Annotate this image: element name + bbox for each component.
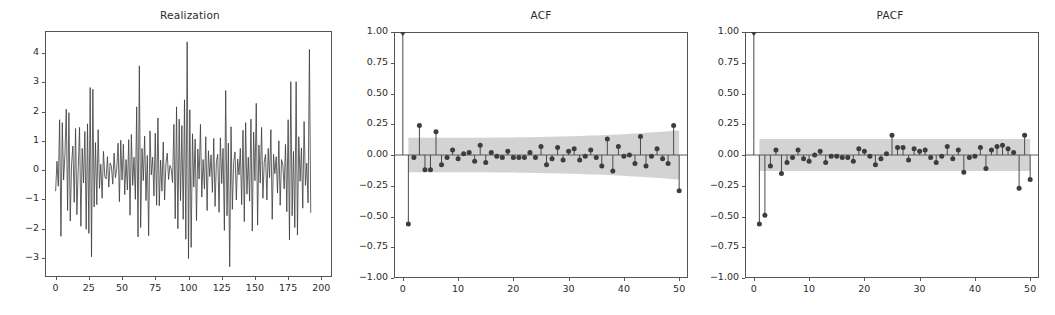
axis-tick-mark [742, 155, 745, 156]
stem-marker [812, 153, 817, 158]
stem-marker [762, 213, 767, 218]
axis-tick-mark [920, 278, 921, 281]
axis-tick-mark [809, 278, 810, 281]
stem-marker [945, 144, 950, 149]
stem-marker [757, 221, 762, 226]
stem-marker [923, 148, 928, 153]
stem-marker [807, 159, 812, 164]
stem-marker [961, 170, 966, 175]
stem-marker [1022, 133, 1027, 138]
stem-marker [856, 146, 861, 151]
stem-marker [878, 156, 883, 161]
stem-marker [917, 149, 922, 154]
axis-tick-mark [742, 63, 745, 64]
stem-marker [823, 160, 828, 165]
stem-marker [901, 145, 906, 150]
y-tick-label: −0.75 [707, 240, 739, 251]
axis-tick-mark [742, 247, 745, 248]
axis-tick-mark [742, 94, 745, 95]
stem-marker [867, 154, 872, 159]
stem-marker [995, 144, 1000, 149]
stem-marker-lag0 [751, 32, 757, 36]
stem-marker [884, 151, 889, 156]
stem-marker [779, 171, 784, 176]
stem-marker [840, 155, 845, 160]
axis-tick-mark [864, 278, 865, 281]
stem-marker [1006, 146, 1011, 151]
stem-marker [895, 145, 900, 150]
stem-marker [768, 164, 773, 169]
stem-marker [1017, 186, 1022, 191]
stem-marker [785, 160, 790, 165]
y-tick-label: −1.00 [707, 271, 739, 282]
stem-marker [1028, 177, 1033, 182]
axis-tick-mark [742, 124, 745, 125]
x-tick-label: 30 [900, 283, 940, 294]
axis-tick-mark [742, 32, 745, 33]
stem-marker [890, 133, 895, 138]
y-tick-label: −0.25 [707, 179, 739, 190]
stem-marker [906, 157, 911, 162]
stem-marker [912, 146, 917, 151]
stem-marker [967, 155, 972, 160]
stem-marker [928, 155, 933, 160]
stem-marker [862, 149, 867, 154]
stem-marker [851, 159, 856, 164]
stem-marker [934, 160, 939, 165]
stem-marker [818, 149, 823, 154]
pacf-stem-plot [0, 0, 1055, 315]
stem-marker [834, 154, 839, 159]
y-tick-label: 0.75 [707, 56, 739, 67]
stem-marker [983, 166, 988, 171]
stem-marker [790, 155, 795, 160]
y-tick-label: 1.00 [707, 25, 739, 36]
stem-marker [972, 154, 977, 159]
stem-marker [873, 162, 878, 167]
y-tick-label: 0.50 [707, 87, 739, 98]
x-tick-label: 10 [789, 283, 829, 294]
figure-panel-container: Realization −3−2−10123402550751001251501… [0, 0, 1055, 315]
stem-marker [939, 154, 944, 159]
axis-tick-mark [754, 278, 755, 281]
axis-tick-mark [742, 217, 745, 218]
y-tick-label: 0.25 [707, 117, 739, 128]
stem-marker [950, 156, 955, 161]
x-tick-label: 20 [844, 283, 884, 294]
x-tick-label: 40 [955, 283, 995, 294]
axis-tick-mark [742, 278, 745, 279]
x-tick-label: 50 [1010, 283, 1050, 294]
x-tick-label: 0 [734, 283, 774, 294]
axis-tick-mark [1030, 278, 1031, 281]
stem-marker [829, 154, 834, 159]
stem-marker [801, 156, 806, 161]
axis-tick-mark [742, 186, 745, 187]
y-tick-label: 0.00 [707, 148, 739, 159]
stem-marker [989, 148, 994, 153]
y-tick-label: −0.50 [707, 210, 739, 221]
stem-marker [796, 148, 801, 153]
stem-marker [1000, 143, 1005, 148]
stem-marker [1011, 150, 1016, 155]
stem-marker [773, 148, 778, 153]
stem-marker [956, 148, 961, 153]
axis-tick-mark [975, 278, 976, 281]
stem-marker [978, 145, 983, 150]
stem-marker [845, 155, 850, 160]
